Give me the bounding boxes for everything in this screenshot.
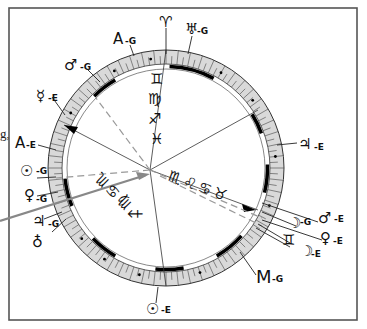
label-mercury-e: ☿-E bbox=[36, 87, 58, 105]
label-venus-g: ♀-G bbox=[24, 186, 47, 204]
label-m-g: M-G bbox=[256, 266, 283, 287]
svg-text:-E: -E bbox=[48, 93, 58, 103]
svg-text:☉: ☉ bbox=[146, 300, 159, 318]
svg-text:-G: -G bbox=[48, 219, 59, 229]
svg-text:-E: -E bbox=[334, 214, 344, 224]
svg-text:-E: -E bbox=[26, 140, 36, 150]
label-mars-g: ♂-G bbox=[64, 56, 91, 74]
label-moon-e: ☽-E bbox=[300, 242, 321, 260]
label-mars-e: ♂-E bbox=[318, 209, 344, 227]
label-earth-g: ♁ bbox=[32, 233, 43, 251]
svg-text:♊: ♊ bbox=[150, 70, 163, 88]
svg-text:-G: -G bbox=[36, 166, 47, 176]
svg-text:☿: ☿ bbox=[36, 87, 45, 105]
label-sun-e: ☉-E bbox=[146, 300, 171, 318]
svg-text:-E: -E bbox=[161, 305, 171, 315]
svg-text:♂: ♂ bbox=[318, 209, 331, 227]
svg-text:♐: ♐ bbox=[148, 110, 161, 128]
svg-text:-G: -G bbox=[197, 26, 208, 36]
svg-text:-G: -G bbox=[80, 62, 91, 72]
svg-text:-G: -G bbox=[125, 36, 136, 46]
svg-text:-G: -G bbox=[272, 274, 283, 284]
label-a-g: A-G bbox=[113, 30, 136, 48]
svg-text:M: M bbox=[256, 266, 272, 287]
graduated-ring bbox=[48, 50, 284, 286]
label-gemini-right: ♊ bbox=[282, 231, 295, 249]
svg-text:♁: ♁ bbox=[32, 233, 43, 251]
svg-text:♂: ♂ bbox=[64, 56, 77, 74]
astrological-chart: ♈ A-G ♅-G ♂-G ☿-E A-E ☉-G ♀-G ♃-G ♁ ♃-E … bbox=[0, 0, 367, 329]
svg-text:-E: -E bbox=[314, 142, 324, 152]
svg-text:♀: ♀ bbox=[24, 186, 35, 204]
svg-text:-G: -G bbox=[36, 194, 47, 204]
svg-text:-E: -E bbox=[311, 249, 321, 259]
svg-text:-G: -G bbox=[300, 217, 311, 227]
aries-glyph: ♈ bbox=[159, 13, 172, 31]
label-venus-e: ♀-E bbox=[320, 229, 343, 247]
svg-text:☉: ☉ bbox=[20, 162, 33, 180]
label-a-e: A-E bbox=[15, 134, 36, 152]
label-jupiter-e: ♃-E bbox=[298, 135, 324, 153]
label-uranus-g: ♅-G bbox=[185, 20, 208, 38]
svg-text:A: A bbox=[15, 134, 26, 152]
svg-text:♀: ♀ bbox=[320, 229, 331, 247]
svg-text:-E: -E bbox=[333, 236, 343, 246]
svg-text:A: A bbox=[113, 30, 124, 48]
svg-text:♊: ♊ bbox=[282, 231, 295, 249]
svg-text:♍: ♍ bbox=[148, 90, 161, 108]
label-moon-g: ☽-G bbox=[288, 214, 311, 232]
svg-text:♓: ♓ bbox=[150, 130, 163, 148]
svg-text:♃: ♃ bbox=[32, 212, 45, 230]
svg-text:♃: ♃ bbox=[298, 135, 311, 153]
